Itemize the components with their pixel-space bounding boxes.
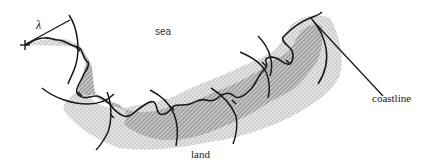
lambda-label: λ bbox=[36, 19, 41, 31]
land-label: land bbox=[191, 149, 210, 160]
sea-label: sea bbox=[155, 27, 171, 37]
coastline-label: coastline bbox=[372, 93, 411, 104]
coastline-diagram bbox=[0, 0, 428, 166]
start-point-marker bbox=[20, 40, 30, 50]
